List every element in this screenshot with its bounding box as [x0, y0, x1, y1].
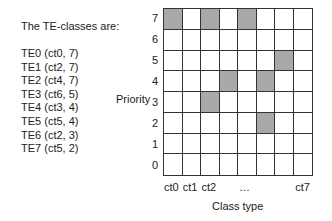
- grid-cell: [294, 30, 313, 51]
- grid-cell: [164, 134, 183, 155]
- grid-cell: [201, 71, 220, 92]
- te-class-cell: [164, 9, 183, 30]
- grid-cell: [201, 154, 220, 175]
- grid-cell: [183, 92, 202, 113]
- grid-cell: [183, 30, 202, 51]
- grid-cell: [294, 92, 313, 113]
- x-tick-label: ct7: [295, 181, 310, 193]
- grid-cell: [183, 154, 202, 175]
- grid-cell: [294, 154, 313, 175]
- grid-cell: [238, 51, 257, 72]
- grid-cell: [294, 51, 313, 72]
- grid-cell: [220, 113, 239, 134]
- te-class-cell: [201, 92, 220, 113]
- x-axis-label: Class type: [212, 200, 263, 212]
- grid-cell: [275, 154, 294, 175]
- grid-cell: [257, 154, 276, 175]
- grid-cell: [275, 134, 294, 155]
- te-class-item: TE0 (ct0, 7): [21, 47, 78, 61]
- y-tick-label: 7: [150, 12, 160, 24]
- te-class-cell: [275, 51, 294, 72]
- te-class-cell: [257, 113, 276, 134]
- te-class-item: TE1 (ct2, 7): [21, 61, 78, 75]
- grid-cell: [164, 113, 183, 134]
- y-tick-label: 3: [150, 96, 160, 108]
- x-tick-label: ct1: [183, 181, 198, 193]
- grid-cell: [220, 51, 239, 72]
- x-tick-label: ct2: [202, 181, 217, 193]
- x-tick-label: ct0: [164, 181, 179, 193]
- y-axis-label: Priority: [116, 93, 150, 105]
- te-class-cell: [238, 9, 257, 30]
- grid-cell: [220, 154, 239, 175]
- grid-cell: [183, 113, 202, 134]
- grid-cell: [257, 134, 276, 155]
- grid-cell: [257, 51, 276, 72]
- grid-cell: [294, 71, 313, 92]
- grid-cell: [294, 113, 313, 134]
- y-tick-label: 5: [150, 54, 160, 66]
- grid-cell: [201, 30, 220, 51]
- grid-cell: [238, 113, 257, 134]
- grid-cell: [220, 134, 239, 155]
- grid-cell: [238, 30, 257, 51]
- te-class-cell: [201, 9, 220, 30]
- grid-cell: [238, 154, 257, 175]
- grid-cell: [220, 30, 239, 51]
- grid-cell: [164, 30, 183, 51]
- grid-cell: [238, 134, 257, 155]
- te-class-item: TE7 (ct5, 2): [21, 142, 78, 156]
- grid-cell: [201, 113, 220, 134]
- grid-cell: [220, 92, 239, 113]
- grid-cell: [238, 92, 257, 113]
- grid-cell: [294, 9, 313, 30]
- grid-cell: [257, 9, 276, 30]
- grid-cell: [275, 92, 294, 113]
- grid-cell: [164, 71, 183, 92]
- priority-classtype-grid: [163, 8, 313, 176]
- grid-cell: [275, 30, 294, 51]
- grid-cell: [183, 51, 202, 72]
- grid-cell: [275, 71, 294, 92]
- te-class-cell: [257, 71, 276, 92]
- y-tick-label: 0: [150, 159, 160, 171]
- grid-cell: [164, 154, 183, 175]
- grid-cell: [164, 92, 183, 113]
- grid-cell: [201, 51, 220, 72]
- te-class-item: TE4 (ct3, 4): [21, 101, 78, 115]
- grid-cell: [257, 92, 276, 113]
- grid-cell: [183, 71, 202, 92]
- grid-cell: [183, 134, 202, 155]
- grid-cell: [183, 9, 202, 30]
- y-tick-label: 1: [150, 138, 160, 150]
- y-tick-label: 4: [150, 75, 160, 87]
- x-tick-label: …: [239, 181, 250, 193]
- grid-cell: [294, 134, 313, 155]
- te-class-item: TE5 (ct5, 4): [21, 115, 78, 129]
- grid-cell: [275, 9, 294, 30]
- y-tick-label: 6: [150, 33, 160, 45]
- grid-cell: [164, 51, 183, 72]
- grid-cell: [220, 9, 239, 30]
- grid-cell: [275, 113, 294, 134]
- te-class-list: TE0 (ct0, 7) TE1 (ct2, 7) TE2 (ct4, 7) T…: [21, 47, 78, 156]
- te-class-item: TE6 (ct2, 3): [21, 129, 78, 143]
- grid-cell: [238, 71, 257, 92]
- y-tick-label: 2: [150, 117, 160, 129]
- grid-cell: [201, 134, 220, 155]
- te-class-item: TE3 (ct6, 5): [21, 88, 78, 102]
- te-class-cell: [220, 71, 239, 92]
- te-class-item: TE2 (ct4, 7): [21, 74, 78, 88]
- grid-cell: [257, 30, 276, 51]
- diagram-title: The TE-classes are:: [21, 20, 119, 32]
